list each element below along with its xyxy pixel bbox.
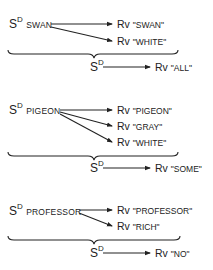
brace-group-2: [8, 152, 178, 160]
stimulus-swan: SD SWAN: [9, 18, 52, 30]
response-word: "SWAN": [133, 20, 164, 30]
stimulus-base: S: [90, 60, 98, 74]
response-swan: Rv "SWAN": [117, 19, 164, 30]
stimulus-base: S: [9, 204, 17, 218]
response-word: "GRAY": [133, 122, 163, 132]
arrow-swan-to-white: [51, 27, 112, 41]
response-word: "NO": [171, 249, 190, 259]
stimulus-base: S: [9, 103, 17, 117]
response-prefix: Rv: [117, 35, 130, 47]
response-word: "WHITE": [133, 37, 166, 47]
response-word: "PIGEON": [133, 106, 172, 116]
stimulus-superscript: D: [98, 244, 104, 253]
arrow-pigeon-to-gray: [60, 112, 112, 126]
response-word: "ALL": [171, 63, 192, 73]
combined-stimulus-3: SD: [90, 247, 104, 259]
response-no: Rv "NO": [155, 248, 190, 259]
response-prefix: Rv: [117, 104, 130, 116]
stimulus-label: SWAN: [26, 20, 52, 30]
stimulus-base: S: [9, 17, 17, 31]
response-word: "RICH": [133, 222, 160, 232]
stimulus-superscript: D: [17, 15, 23, 24]
response-word: "SOME": [171, 164, 202, 174]
response-prefix: Rv: [155, 61, 168, 73]
response-prefix: Rv: [117, 136, 130, 148]
diagram-lines: [0, 0, 213, 270]
stimulus-base: S: [90, 161, 98, 175]
response-some: Rv "SOME": [155, 163, 202, 174]
arrow-pigeon-to-white: [60, 114, 112, 142]
response-white: Rv "WHITE": [117, 36, 166, 47]
combined-stimulus-2: SD: [90, 162, 104, 174]
arrow-professor-to-rich: [79, 213, 112, 226]
stimulus-base: S: [90, 246, 98, 260]
brace-group-1: [8, 50, 178, 58]
stimulus-superscript: D: [98, 159, 104, 168]
response-all: Rv "ALL": [155, 62, 192, 73]
response-prefix: Rv: [155, 247, 168, 259]
response-word: "PROFESSOR": [133, 206, 192, 216]
stimulus-superscript: D: [17, 101, 23, 110]
stimulus-label: PIGEON: [26, 106, 60, 116]
response-prefix: Rv: [117, 220, 130, 232]
stimulus-superscript: D: [17, 202, 23, 211]
stimulus-professor: SD PROFESSOR: [9, 205, 81, 217]
response-pigeon: Rv "PIGEON": [117, 105, 172, 116]
response-prefix: Rv: [117, 120, 130, 132]
stimulus-pigeon: SD PIGEON: [9, 104, 60, 116]
response-white-2: Rv "WHITE": [117, 137, 166, 148]
brace-group-3: [8, 236, 180, 244]
stimulus-superscript: D: [98, 58, 104, 67]
response-prefix: Rv: [117, 204, 130, 216]
stimulus-label: PROFESSOR: [26, 207, 81, 217]
response-rich: Rv "RICH": [117, 221, 160, 232]
response-word: "WHITE": [133, 138, 166, 148]
response-professor: Rv "PROFESSOR": [117, 205, 192, 216]
response-prefix: Rv: [155, 162, 168, 174]
response-gray: Rv "GRAY": [117, 121, 162, 132]
response-prefix: Rv: [117, 18, 130, 30]
combined-stimulus-1: SD: [90, 61, 104, 73]
